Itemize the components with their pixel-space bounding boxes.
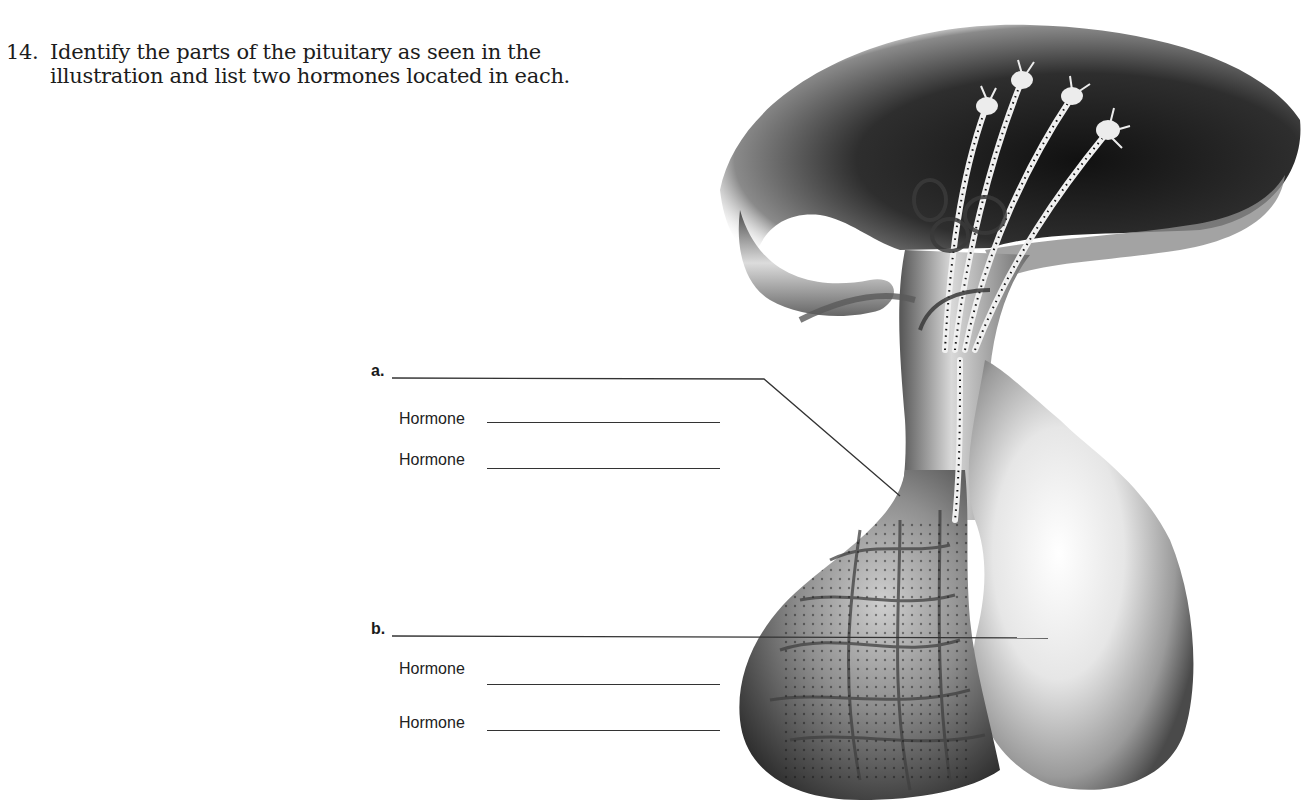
label-b-hormone-2-blank[interactable]: [487, 730, 720, 731]
label-a-hormone-2-label: Hormone: [399, 451, 465, 469]
leader-line-a: [392, 378, 900, 496]
label-b-hormone-2-label: Hormone: [399, 714, 465, 732]
label-b-hormone-1-blank[interactable]: [487, 684, 720, 685]
posterior-pituitary: [969, 360, 1194, 790]
label-a-hormone-2-blank[interactable]: [487, 468, 720, 469]
label-b-hormone-1-label: Hormone: [399, 660, 465, 678]
label-a-hormone-1-blank[interactable]: [487, 422, 720, 423]
label-b-letter: b.: [371, 620, 385, 638]
pituitary-illustration: [0, 0, 1302, 808]
label-a-hormone-1-label: Hormone: [399, 410, 465, 428]
label-a-letter: a.: [371, 362, 384, 380]
